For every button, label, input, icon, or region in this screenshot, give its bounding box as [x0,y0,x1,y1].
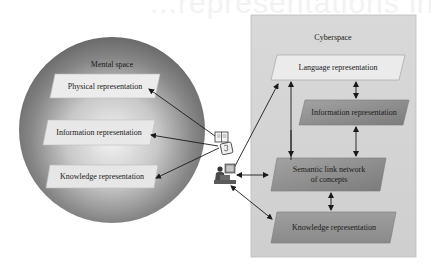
cyber-information-label: Information representation [302,108,406,117]
cyber-language-label: Language representation [278,63,398,72]
diagram-canvas: ...representations in Cyberspace [0,0,431,274]
cyber-semantic-label-line2: of concepts [276,175,382,184]
cyber-knowledge-label: Knowledge representation [278,223,390,232]
puzzle-brain-icon [220,142,233,155]
mental-information-label: Information representation [46,128,152,137]
mental-knowledge-label: Knowledge representation [50,172,154,181]
book-icon [215,132,228,142]
mental-space-title: Mental space [82,60,142,69]
cyberspace-title: Cyberspace [303,33,363,42]
mental-physical-label: Physical representation [55,82,155,91]
person-at-computer-icon [214,164,236,184]
cyber-semantic-label-line1: Semantic link network [276,165,382,174]
